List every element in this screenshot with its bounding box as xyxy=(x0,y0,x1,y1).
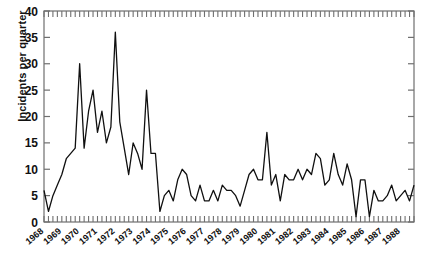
x-tick-label: 1969 xyxy=(41,226,63,247)
x-tick-label: 1980 xyxy=(237,226,259,247)
x-tick-label: 1987 xyxy=(362,226,384,247)
x-tick-label: 1978 xyxy=(202,226,224,247)
line-chart-plot: 0510152025303540196819691970197119721973… xyxy=(0,0,428,261)
x-tick-label: 1971 xyxy=(77,226,99,247)
x-tick-label: 1986 xyxy=(344,226,366,247)
x-tick-label: 1972 xyxy=(95,226,117,247)
x-tick-label: 1968 xyxy=(24,226,46,247)
x-tick-label: 1979 xyxy=(220,226,242,247)
x-tick-label: 1974 xyxy=(131,226,153,247)
x-tick-label: 1977 xyxy=(184,226,206,247)
y-tick-label: 15 xyxy=(25,136,39,150)
y-tick-label: 10 xyxy=(25,163,39,177)
data-series-line xyxy=(44,32,414,217)
x-tick-label: 1982 xyxy=(273,226,295,247)
y-tick-label: 40 xyxy=(25,5,39,19)
y-tick-label: 35 xyxy=(25,31,39,45)
x-tick-label: 1976 xyxy=(166,226,188,247)
x-tick-label: 1981 xyxy=(255,226,277,247)
x-tick-label: 1973 xyxy=(113,226,135,247)
x-tick-label: 1975 xyxy=(148,226,170,247)
x-tick-label: 1970 xyxy=(59,226,81,247)
y-tick-label: 5 xyxy=(31,189,38,203)
y-tick-label: 20 xyxy=(25,110,39,124)
y-tick-label: 25 xyxy=(25,84,39,98)
chart-figure: Incidents per quarter 051015202530354019… xyxy=(0,0,428,261)
y-tick-label: 30 xyxy=(25,57,39,71)
x-tick-label: 1988 xyxy=(380,226,402,247)
x-tick-label: 1985 xyxy=(327,226,349,247)
x-tick-label: 1983 xyxy=(291,226,313,247)
x-tick-label: 1984 xyxy=(309,226,331,247)
